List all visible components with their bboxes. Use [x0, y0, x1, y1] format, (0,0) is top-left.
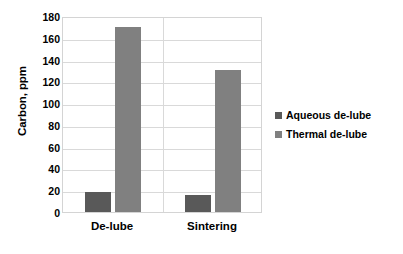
legend-swatch-icon: [275, 112, 282, 119]
y-tick-label: 20: [30, 186, 60, 196]
bar: [85, 192, 111, 212]
x-axis-label: De-lube: [62, 220, 162, 232]
y-tick-label: 180: [30, 12, 60, 22]
y-tick-label: 80: [30, 121, 60, 131]
y-axis-title: Carbon, ppm: [16, 46, 28, 156]
bar: [115, 27, 141, 212]
y-tick-label: 160: [30, 34, 60, 44]
y-tick-label: 0: [30, 208, 60, 218]
bar: [185, 195, 211, 212]
y-tick-label: 40: [30, 164, 60, 174]
legend-item: Aqueous de-lube: [275, 109, 401, 122]
x-axis-label: Sintering: [162, 220, 262, 232]
y-axis-tick-labels: 020406080100120140160180: [30, 17, 60, 213]
bar-chart: Carbon, ppm 020406080100120140160180 De-…: [0, 0, 403, 254]
chart-legend: Aqueous de-lubeThermal de-lube: [275, 109, 401, 147]
x-axis-category-labels: De-lubeSintering: [62, 220, 262, 240]
y-tick-label: 100: [30, 99, 60, 109]
legend-label: Aqueous de-lube: [286, 110, 371, 121]
y-tick-label: 120: [30, 77, 60, 87]
legend-item: Thermal de-lube: [275, 128, 401, 141]
plot-area: [62, 17, 262, 213]
bars-layer: [63, 18, 261, 212]
bar: [215, 70, 241, 212]
legend-label: Thermal de-lube: [286, 129, 367, 140]
legend-swatch-icon: [275, 131, 282, 138]
y-tick-label: 60: [30, 143, 60, 153]
y-tick-label: 140: [30, 56, 60, 66]
